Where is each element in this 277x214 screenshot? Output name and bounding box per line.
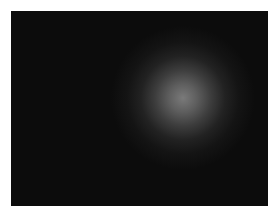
blurred-light-glow bbox=[11, 11, 268, 206]
dark-photo-frame bbox=[11, 11, 268, 206]
